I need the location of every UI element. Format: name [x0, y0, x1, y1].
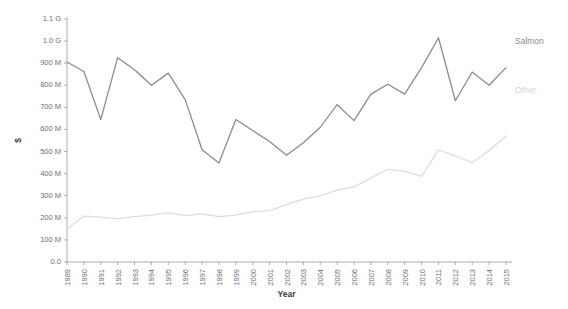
x-tick-label: 1990 — [80, 269, 89, 286]
y-tick-label: 500 M — [40, 147, 61, 156]
x-axis-title: Year — [278, 289, 297, 299]
x-tick-label: 1999 — [232, 269, 241, 286]
x-axis: 1989199019911992199319941995199619971998… — [63, 262, 512, 286]
x-tick-label: 2001 — [266, 269, 275, 286]
y-axis-ticks: 0.0100 M200 M300 M400 M500 M600 M700 M80… — [40, 14, 67, 266]
series-label-salmon: Salmon — [515, 36, 544, 46]
series-lines — [67, 38, 506, 230]
y-tick-label: 700 M — [40, 102, 61, 111]
x-tick-label: 2015 — [502, 269, 511, 286]
series-line-other — [67, 136, 506, 229]
x-tick-label: 2012 — [451, 269, 460, 286]
y-tick-label: 1.1 G — [43, 14, 62, 23]
chart-canvas: 0.0100 M200 M300 M400 M500 M600 M700 M80… — [0, 0, 568, 309]
y-tick-label: 0.0 — [51, 257, 61, 266]
x-tick-label: 1997 — [198, 269, 207, 286]
series-line-salmon — [67, 38, 506, 163]
x-tick-label: 2009 — [401, 269, 410, 286]
x-tick-label: 1998 — [215, 269, 224, 286]
x-tick-label: 2007 — [367, 269, 376, 286]
x-tick-label: 1996 — [181, 269, 190, 286]
series-label-other: Other — [515, 85, 536, 95]
x-tick-label: 2014 — [485, 269, 494, 286]
x-tick-label: 1992 — [114, 269, 123, 286]
x-tick-label: 1991 — [97, 269, 106, 286]
x-tick-label: 2011 — [434, 269, 443, 285]
y-tick-label: 400 M — [40, 169, 61, 178]
y-tick-label: 100 M — [40, 235, 61, 244]
x-tick-label: 2003 — [299, 269, 308, 286]
y-tick-label: 600 M — [40, 124, 61, 133]
x-tick-label: 1989 — [63, 269, 72, 286]
x-tick-label: 2010 — [418, 269, 427, 286]
x-tick-label: 1994 — [147, 269, 156, 286]
y-tick-label: 1.0 G — [43, 36, 62, 45]
y-tick-label: 900 M — [40, 58, 61, 67]
x-tick-label: 2004 — [316, 269, 325, 286]
y-tick-label: 800 M — [40, 80, 61, 89]
series-inline-labels: SalmonOther — [515, 36, 544, 95]
y-tick-label: 300 M — [40, 191, 61, 200]
x-tick-label: 2008 — [384, 269, 393, 286]
y-axis: 0.0100 M200 M300 M400 M500 M600 M700 M80… — [40, 14, 67, 266]
x-axis-ticks: 1989199019911992199319941995199619971998… — [63, 262, 511, 286]
line-chart: 0.0100 M200 M300 M400 M500 M600 M700 M80… — [0, 0, 568, 309]
x-tick-label: 2005 — [333, 269, 342, 286]
x-tick-label: 1995 — [164, 269, 173, 286]
x-tick-label: 1993 — [131, 269, 140, 286]
x-tick-label: 2002 — [283, 269, 292, 286]
x-tick-label: 2000 — [249, 269, 258, 286]
y-tick-label: 200 M — [40, 213, 61, 222]
y-axis-title: $ — [13, 138, 23, 143]
x-tick-label: 2013 — [468, 269, 477, 286]
x-tick-label: 2006 — [350, 269, 359, 286]
